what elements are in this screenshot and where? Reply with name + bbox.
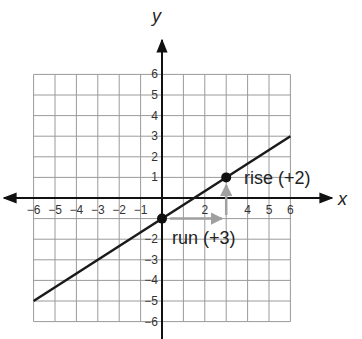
x-axis-label: x	[337, 189, 348, 209]
y-tick-label: −5	[144, 294, 158, 308]
y-tick-label: 4	[151, 109, 158, 123]
y-tick-label: 1	[151, 170, 158, 184]
y-tick-label: −2	[144, 232, 158, 246]
x-tick-label: −6	[27, 203, 41, 217]
x-tick-label: −3	[91, 203, 105, 217]
y-axis-label: y	[150, 6, 162, 26]
x-tick-label: −5	[48, 203, 62, 217]
x-tick-label: −4	[70, 203, 84, 217]
y-tick-label: 3	[151, 129, 158, 143]
x-tick-label: 5	[266, 203, 273, 217]
coordinate-plane: −6−5−4−3−2−12456 654321−2−3−4−5−6 x y ri…	[0, 0, 362, 339]
y-tick-label: −3	[144, 253, 158, 267]
y-tick-label: 6	[151, 67, 158, 81]
y-tick-label: 5	[151, 88, 158, 102]
x-tick-label: 6	[287, 203, 294, 217]
run-label: run (+3)	[172, 228, 236, 248]
x-tick-label: −1	[134, 203, 148, 217]
data-point	[221, 172, 231, 182]
y-tick-label: −6	[144, 315, 158, 329]
data-point	[157, 214, 167, 224]
y-tick-label: −4	[144, 273, 158, 287]
y-tick-label: 2	[151, 150, 158, 164]
x-tick-label: 4	[244, 203, 251, 217]
x-tick-label: −2	[112, 203, 126, 217]
x-tick-label: 2	[201, 203, 208, 217]
rise-label: rise (+2)	[244, 168, 311, 188]
